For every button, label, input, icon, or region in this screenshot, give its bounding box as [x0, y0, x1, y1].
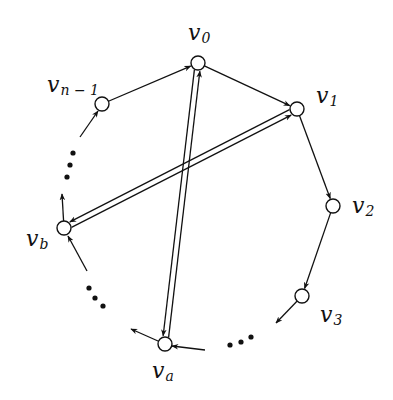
ellipsis-dot	[86, 285, 91, 290]
ellipsis-dot	[227, 342, 232, 347]
ellipsis-dot	[67, 162, 72, 167]
chord-edge-v1-vb	[70, 110, 290, 222]
ellipsis-dot	[64, 174, 69, 179]
edge-v0-v1	[204, 66, 289, 106]
edge-vn1-v0	[108, 66, 190, 101]
node-v0	[191, 56, 205, 70]
node-label-v3: v3	[320, 302, 342, 328]
node-v2	[326, 199, 340, 213]
node-label-vn1: vn − 1	[47, 72, 99, 98]
edge-v2-v3	[305, 213, 331, 289]
ellipsis-layer	[64, 150, 253, 347]
labels-layer: v0v1v2v3vavbvn − 1	[26, 20, 374, 384]
stub-edge	[68, 236, 87, 271]
node-v1	[290, 102, 304, 116]
edge-v1-v2	[299, 116, 330, 199]
node-vb	[57, 221, 71, 235]
node-vn1	[95, 97, 109, 111]
ellipsis-dot	[248, 334, 253, 339]
ellipsis-dot	[70, 150, 75, 155]
node-label-v2: v2	[352, 193, 374, 219]
node-va	[158, 337, 172, 351]
stub-edge	[80, 111, 98, 137]
node-label-vb: vb	[26, 226, 48, 252]
node-label-v0: v0	[188, 20, 210, 46]
chord-edge-va-v0	[169, 71, 200, 337]
node-v3	[295, 289, 309, 303]
ellipsis-dot	[238, 339, 243, 344]
chord-edge-v0-va	[163, 70, 194, 336]
node-label-v1: v1	[316, 83, 338, 109]
graph-diagram: v0v1v2v3vavbvn − 1	[0, 0, 393, 400]
stub-edge	[131, 329, 158, 341]
ellipsis-dot	[100, 303, 105, 308]
node-label-va: va	[152, 358, 174, 384]
ellipsis-dot	[92, 295, 97, 300]
stub-edge	[172, 346, 205, 350]
nodes-layer	[57, 56, 340, 351]
chord-edge-vb-v1	[72, 115, 292, 227]
